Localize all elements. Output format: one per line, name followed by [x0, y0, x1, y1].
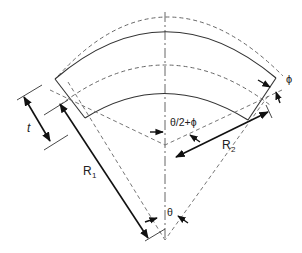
t-ext-top [17, 85, 42, 100]
label-half-angle: θ/2+ϕ [170, 116, 197, 128]
label-r2: R [222, 138, 231, 152]
label-t: t [27, 121, 31, 135]
phi-arrow-top [258, 80, 270, 87]
r2-ext-top [266, 105, 272, 118]
half-angle-arrow-right [190, 135, 200, 142]
r1-ext-bottom [145, 229, 165, 241]
label-r1-sub: 1 [92, 171, 97, 180]
inner-solid-arc [85, 93, 248, 120]
geometry-diagram: t R 1 R 2 θ/2+ϕ θ ϕ [0, 0, 302, 253]
r1-ext-top [44, 100, 68, 115]
phi-arrow-bottom [276, 92, 280, 103]
theta-arrow-left [145, 218, 157, 222]
label-phi: ϕ [286, 73, 292, 85]
outer-solid-arc [55, 32, 276, 79]
label-r2-sub: 2 [231, 145, 236, 154]
outer-dashed-arc [58, 17, 283, 76]
dashed-ray-left-1 [50, 90, 165, 145]
label-theta: θ [167, 206, 173, 218]
r1-arrow [60, 104, 148, 238]
theta-arrow-right [178, 216, 188, 223]
label-r1: R [83, 164, 92, 178]
